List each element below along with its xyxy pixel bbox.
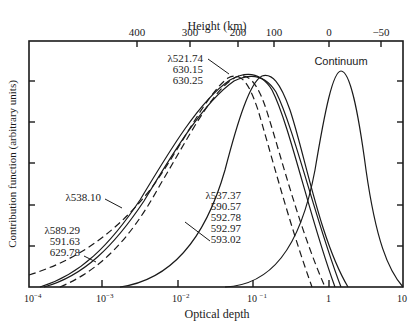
annotation-589: λ589.29 591.63 629.78 [44, 224, 80, 258]
curve-538-solid-a [40, 75, 335, 287]
svg-text:300: 300 [182, 26, 199, 38]
curve-538-solid-b [44, 76, 341, 287]
curve-continuum [225, 71, 403, 287]
svg-text:593.02: 593.02 [211, 233, 241, 245]
svg-text:10 −1: 10 −1 [247, 292, 267, 304]
svg-text:400: 400 [129, 26, 146, 38]
annotation-537: λ537.37 590.57 592.78 592.97 593.02 [205, 189, 241, 245]
svg-text:−50: −50 [372, 26, 390, 38]
svg-text:200: 200 [230, 26, 247, 38]
annotation-521: λ521.74 630.15 630.25 [167, 52, 203, 86]
svg-text:10−3: 10−3 [96, 292, 114, 304]
y-axis-title: Contribution function (arbitrary units) [6, 80, 19, 248]
svg-text:0: 0 [326, 26, 332, 38]
bottom-tick-labels: 10−4 10−3 10−2 10 −1 1 10 [24, 292, 407, 304]
contribution-function-chart: Height (km) 400 300 200 100 0 −50 10−4 1… [0, 0, 419, 327]
svg-text:1: 1 [326, 293, 331, 304]
svg-text:629.78: 629.78 [50, 246, 81, 258]
svg-text:10: 10 [397, 293, 407, 304]
curves [29, 71, 403, 287]
svg-text:10−4: 10−4 [24, 292, 42, 304]
svg-text:100: 100 [266, 26, 283, 38]
svg-text:630.25: 630.25 [173, 74, 204, 86]
top-axis-ticks [137, 41, 381, 47]
top-tick-labels: 400 300 200 100 0 −50 [129, 26, 390, 38]
curve-537-solid [120, 75, 348, 287]
annotation-continuum: Continuum [314, 55, 367, 67]
svg-text:10−2: 10−2 [172, 292, 190, 304]
annotation-leaders [84, 59, 229, 262]
annotation-538: λ538.10 [65, 191, 101, 203]
x-axis-title: Optical depth [185, 307, 250, 321]
